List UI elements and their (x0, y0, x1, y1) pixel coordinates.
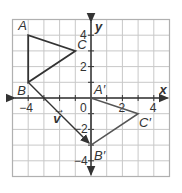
y-axis-label: y (94, 19, 103, 34)
coordinate-plane: xy−42442−2−40v→ABCA′B′C′ (0, 0, 182, 193)
x-axis-label: x (159, 82, 168, 97)
y-tick-label: 2 (80, 60, 87, 74)
vector-arrow-accent: → (53, 102, 65, 116)
vertex-label-C-prime: C′ (139, 115, 151, 130)
image-triangle (91, 98, 138, 145)
origin-label: 0 (80, 101, 87, 115)
vertex-label-B-prime: B′ (94, 148, 106, 163)
vertex-label-A: A (17, 18, 27, 33)
vertex-label-A-prime: A′ (93, 82, 106, 97)
x-tick-label: 4 (150, 101, 157, 115)
x-tick-label: −4 (19, 101, 33, 115)
preimage-triangle (28, 35, 75, 82)
vertex-label-B: B (17, 83, 26, 98)
y-tick-label: −4 (74, 154, 88, 168)
vertex-label-C: C (77, 37, 87, 52)
